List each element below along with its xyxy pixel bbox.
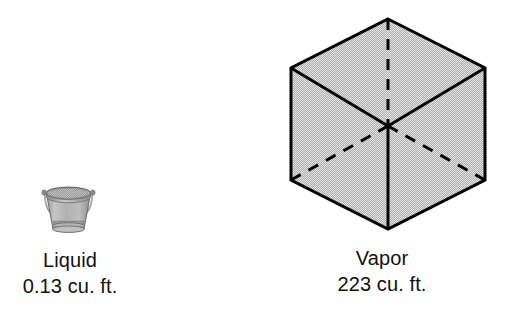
liquid-label-block: Liquid 0.13 cu. ft. xyxy=(0,248,140,299)
vapor-label-value: 223 cu. ft. xyxy=(267,271,497,297)
bucket-icon xyxy=(38,180,100,236)
liquid-figure: Liquid 0.13 cu. ft. xyxy=(0,175,140,300)
liquid-label-name: Liquid xyxy=(0,248,140,273)
cube-icon xyxy=(275,8,500,240)
liquid-label-value: 0.13 cu. ft. xyxy=(0,273,140,299)
vapor-label-name: Vapor xyxy=(267,246,497,271)
vapor-figure: Vapor 223 cu. ft. xyxy=(275,8,505,300)
vapor-label-block: Vapor 223 cu. ft. xyxy=(267,246,497,297)
